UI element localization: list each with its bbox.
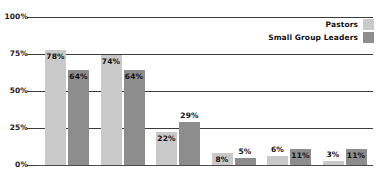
bar: 64% (68, 70, 89, 165)
legend-color-swatch (363, 19, 374, 30)
y-axis-tick-label: 75% (0, 49, 28, 58)
y-axis-tick-label: 100% (0, 12, 28, 21)
y-axis-tick-label: 50% (0, 86, 28, 95)
bar: 3% (323, 161, 344, 165)
bar: 78% (45, 50, 66, 165)
bar-value-label: 6% (271, 145, 284, 154)
y-tick-mark (27, 91, 36, 92)
bar-value-label: 3% (327, 150, 340, 159)
bar-value-label: 74% (102, 57, 120, 66)
bar: 22% (156, 132, 177, 165)
bar-group: 74%64%Discipleship (101, 17, 145, 165)
y-tick-mark (27, 17, 36, 18)
bar-value-label: 29% (180, 111, 198, 120)
legend-label: Pastors (326, 20, 358, 29)
bar-group: 22%29%Assimilation (156, 17, 200, 165)
bar: 64% (124, 70, 145, 165)
y-axis-tick-label: 25% (0, 123, 28, 132)
bar: 11% (290, 149, 311, 165)
bar-group: 78%64%Fellowship (45, 17, 89, 165)
bar-value-label: 11% (291, 151, 309, 160)
bar: 5% (235, 158, 256, 165)
bar-value-label: 8% (216, 155, 229, 164)
y-tick-mark (27, 165, 36, 166)
bar-value-label: 64% (69, 72, 87, 81)
x-axis-line (36, 165, 373, 166)
legend-item: Pastors (240, 19, 374, 30)
y-tick-mark (27, 128, 36, 129)
y-tick-mark (27, 54, 36, 55)
bar: 8% (212, 153, 233, 165)
legend-item: Small Group Leaders (240, 32, 374, 43)
bar-value-label: 78% (46, 52, 64, 61)
bar: 6% (267, 156, 288, 165)
bar-value-label: 64% (125, 72, 143, 81)
legend: PastorsSmall Group Leaders (240, 18, 374, 51)
bar-value-label: 5% (239, 147, 252, 156)
bar-value-label: 22% (157, 134, 175, 143)
legend-color-swatch (363, 32, 374, 43)
bar: 11% (346, 149, 367, 165)
bar-value-label: 11% (347, 151, 365, 160)
legend-label: Small Group Leaders (268, 33, 358, 42)
bar-chart: 100%75%50%25%0% 78%64%Fellowship74%64%Di… (0, 0, 378, 187)
bar: 74% (101, 55, 122, 165)
y-axis-tick-label: 0% (0, 160, 28, 169)
bar: 29% (179, 122, 200, 165)
